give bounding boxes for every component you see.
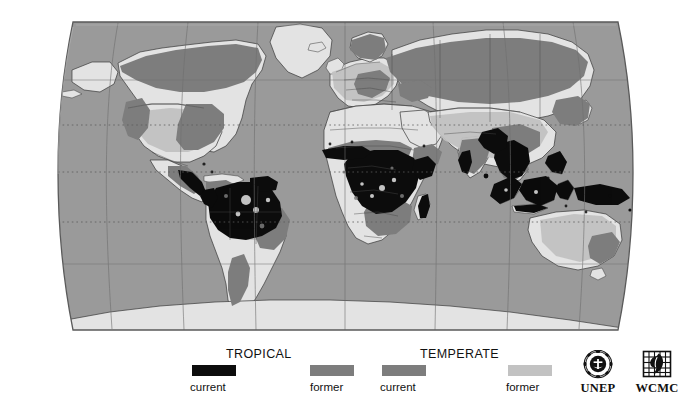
swatch-tropical-former [310,365,354,376]
world-map-svg [0,0,691,345]
legend-title-tropical: TROPICAL [226,347,292,361]
swatch-tropical-current [192,365,236,376]
legend-label-tropical-former: former [310,381,343,393]
legend-group-tropical: TROPICAL current former [190,345,380,405]
laurel-wreath-globe-icon [582,350,614,380]
legend-label-tropical-current: current [190,381,226,393]
swatch-temperate-current [382,365,426,376]
world-map-figure [0,0,691,345]
wcmc-logo-text: WCMC [628,381,686,396]
legend-label-temperate-former: former [506,381,539,393]
wcmc-logo: WCMC [628,350,686,396]
map-content [0,0,691,345]
swatch-temperate-former [508,365,552,376]
unep-logo: UNEP [572,350,624,396]
leaf-grid-icon [641,350,673,380]
unep-logo-text: UNEP [572,381,624,396]
forest-map-page: TROPICAL current former TEMPERATE curren… [0,0,691,405]
legend-label-temperate-current: current [380,381,416,393]
logo-row: UNEP WCMC [572,350,687,400]
legend-group-temperate: TEMPERATE current former [380,345,580,405]
legend-title-temperate: TEMPERATE [420,347,499,361]
